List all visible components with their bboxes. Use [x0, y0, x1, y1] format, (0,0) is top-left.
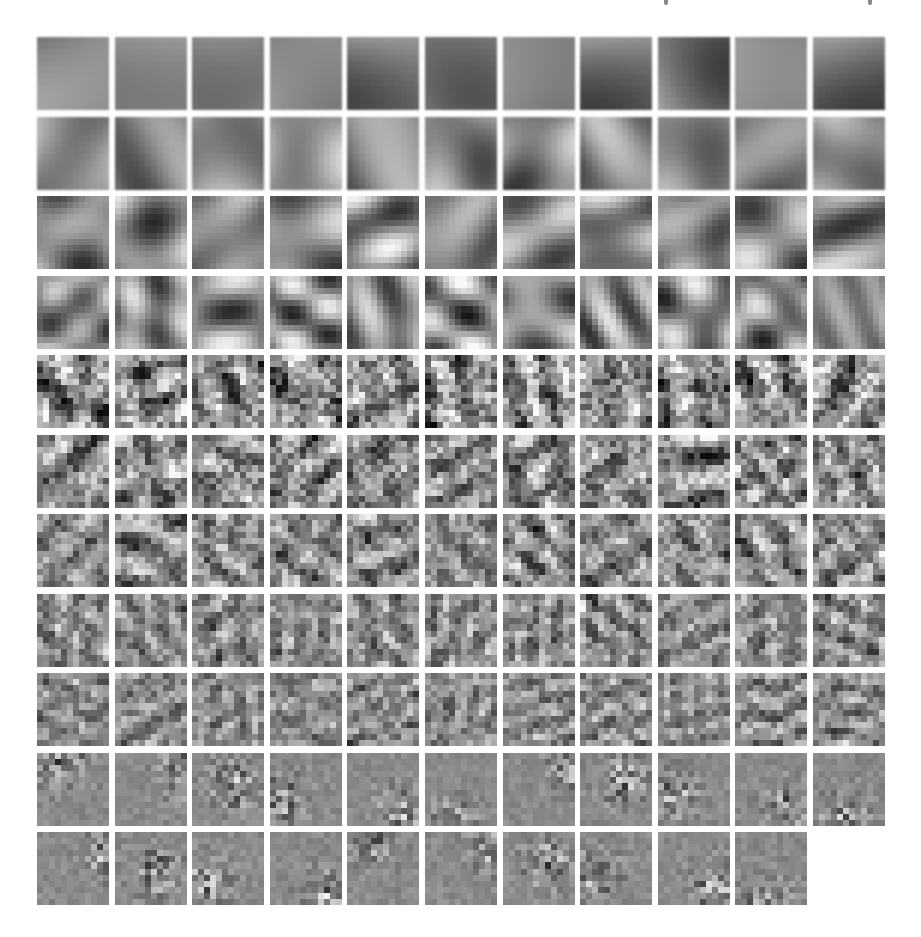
filter-tile: [813, 753, 885, 826]
filter-tile: [658, 832, 730, 905]
filter-tile: [425, 435, 497, 508]
filter-tile: [658, 435, 730, 508]
filter-tile: [270, 196, 342, 269]
filter-tile: [115, 196, 187, 269]
filter-tile: [735, 37, 807, 110]
filter-tile: [192, 753, 264, 826]
filter-tile: [580, 117, 652, 190]
filter-tile: [813, 276, 885, 349]
filter-tile: [735, 594, 807, 667]
filter-tile: [580, 753, 652, 826]
filter-tile: [270, 673, 342, 746]
filter-tile: [658, 753, 730, 826]
filter-tile: [115, 355, 187, 428]
filter-tile: [503, 37, 575, 110]
filter-tile: [192, 832, 264, 905]
filter-tile: [37, 355, 109, 428]
filter-tile: [192, 514, 264, 587]
filter-tile: [658, 196, 730, 269]
filter-tile: [270, 355, 342, 428]
filter-tile: [37, 117, 109, 190]
filter-tile: [115, 37, 187, 110]
filter-tile: [425, 276, 497, 349]
filter-tile: [115, 832, 187, 905]
filter-tile: [115, 673, 187, 746]
filter-tile: [347, 276, 419, 349]
filter-tile: [735, 355, 807, 428]
filter-tile: [658, 37, 730, 110]
filter-tile: [115, 594, 187, 667]
filter-tile: [347, 196, 419, 269]
filter-tile: [270, 514, 342, 587]
filter-tile: [813, 594, 885, 667]
filter-tile: [192, 435, 264, 508]
filter-tile: [425, 753, 497, 826]
filter-tile: [503, 514, 575, 587]
filter-tile: [813, 196, 885, 269]
filter-tile: [735, 435, 807, 508]
filter-tile: [425, 673, 497, 746]
filter-tile: [503, 832, 575, 905]
filter-tile: [347, 514, 419, 587]
filter-tile: [580, 435, 652, 508]
filter-tile: [37, 196, 109, 269]
filter-tile: [270, 594, 342, 667]
filter-tile: [503, 673, 575, 746]
filter-tile: [347, 753, 419, 826]
filter-tile: [347, 832, 419, 905]
filter-tile: [813, 355, 885, 428]
filter-tile: [735, 673, 807, 746]
filter-grid: [0, 0, 921, 937]
filter-tile: [425, 594, 497, 667]
filter-tile: [580, 276, 652, 349]
filter-tile: [580, 196, 652, 269]
filter-tile: [192, 117, 264, 190]
filter-tile: [37, 673, 109, 746]
filter-tile: [270, 37, 342, 110]
filter-tile: [503, 276, 575, 349]
filter-tile: [115, 117, 187, 190]
filter-tile: [735, 117, 807, 190]
filter-tile: [425, 117, 497, 190]
filter-tile: [580, 673, 652, 746]
filter-tile: [270, 753, 342, 826]
filter-tile: [347, 673, 419, 746]
filter-tile: [425, 37, 497, 110]
filter-tile: [813, 673, 885, 746]
filter-tile: [735, 276, 807, 349]
filter-tile: [735, 832, 807, 905]
filter-tile: [37, 435, 109, 508]
filter-tile: [347, 117, 419, 190]
filter-tile: [580, 355, 652, 428]
filter-tile: [37, 514, 109, 587]
filter-tile: [658, 276, 730, 349]
filter-tile: [425, 196, 497, 269]
filter-tile: [192, 196, 264, 269]
filter-tile: [270, 117, 342, 190]
filter-tile: [270, 435, 342, 508]
filter-tile: [503, 117, 575, 190]
filter-tile: [425, 514, 497, 587]
filter-tile: [37, 37, 109, 110]
filter-tile: [503, 594, 575, 667]
filter-tile: [735, 196, 807, 269]
filter-tile: [425, 832, 497, 905]
filter-tile: [192, 355, 264, 428]
filter-tile: [37, 594, 109, 667]
filter-tile: [580, 832, 652, 905]
filter-tile: [580, 514, 652, 587]
filter-tile: [425, 355, 497, 428]
filter-tile: [270, 832, 342, 905]
filter-tile: [270, 276, 342, 349]
filter-tile: [115, 435, 187, 508]
filter-tile: [37, 832, 109, 905]
filter-tile: [37, 753, 109, 826]
filter-tile: [503, 196, 575, 269]
filter-tile: [580, 594, 652, 667]
filter-tile: [658, 355, 730, 428]
filter-tile: [735, 753, 807, 826]
filter-tile: [658, 117, 730, 190]
filter-tile: [192, 594, 264, 667]
filter-tile: [347, 435, 419, 508]
filter-tile: [813, 514, 885, 587]
